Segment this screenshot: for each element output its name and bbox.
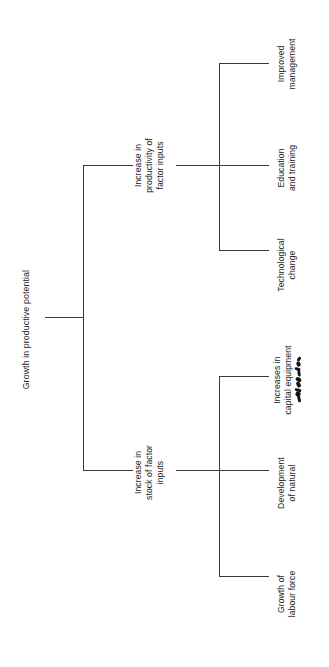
connector-leaf-improved-management [219, 63, 269, 64]
node-growth-of-labour-force[interactable]: Growth of labour force [270, 548, 304, 640]
node-label: Growth in productive potential [21, 270, 32, 389]
node-label: Improved management [276, 38, 298, 89]
connector-arm-stock [83, 470, 133, 471]
connector-leaf-technological-change [219, 250, 269, 251]
node-increase-in-stock-of-factor-inputs[interactable]: Increase in stock of factor inputs [128, 402, 170, 542]
node-label: Growth of labour force [276, 571, 298, 618]
node-label-line: stock of factor [144, 445, 155, 500]
node-growth-in-productive-potential[interactable]: Growth in productive potential [14, 220, 40, 440]
connector-root-stem [45, 317, 83, 318]
tree-diagram: Growth in productive potential Increase … [0, 0, 329, 667]
node-label-line: management [287, 38, 298, 89]
connector-leaf-increases-in-capital-equipment [219, 376, 269, 377]
node-development-of-natural[interactable]: Development of natural [270, 436, 304, 530]
node-label: Technological change [276, 238, 298, 291]
node-label-line: change [287, 238, 298, 291]
node-label-line: labour force [287, 571, 298, 618]
node-improved-management[interactable]: Improved management [272, 20, 302, 108]
node-label-line: Increase in [133, 138, 144, 193]
handwritten-scribble-annotation [295, 357, 302, 403]
connector-branch2-stem [176, 470, 219, 471]
node-label-line: Increase in [133, 445, 144, 500]
connector-leaf-growth-of-labour-force [219, 576, 269, 577]
node-label-line: inputs [155, 445, 166, 500]
connector-branch2-spine-main [219, 376, 220, 576]
node-label-line: Increases in [272, 345, 283, 414]
connector-branch1-spine [219, 63, 220, 251]
node-label-line: of natural [287, 457, 298, 509]
node-label: Development of natural [276, 457, 298, 509]
node-label-line: Technological [276, 238, 287, 291]
connector-branch1-stem [176, 165, 219, 166]
node-label: Education and training [276, 145, 298, 191]
node-label-line: and training [287, 145, 298, 191]
node-label-line: factor inputs [155, 138, 166, 193]
connector-leaf-education-and-training [219, 165, 269, 166]
node-label: Increases in capital equipment [272, 345, 302, 414]
node-education-and-training[interactable]: Education and training [272, 128, 302, 208]
node-label-line: Growth of [276, 571, 287, 618]
node-label-line: capital equipment [283, 345, 294, 414]
connector-leaf-development-of-natural [219, 470, 269, 471]
node-label-line: Growth in productive potential [21, 270, 32, 389]
node-increases-in-capital-equipment[interactable]: Increases in capital equipment [268, 330, 306, 430]
node-label-line: Improved [276, 38, 287, 89]
node-technological-change[interactable]: Technological change [272, 222, 302, 308]
node-label-line: productivity of [144, 138, 155, 193]
node-label: Increase in productivity of factor input… [133, 138, 166, 193]
node-label-line: Education [276, 145, 287, 191]
node-label-line: Development [276, 457, 287, 509]
connector-arm-productivity [83, 165, 133, 166]
connector-main-spine [83, 165, 84, 471]
node-label: Increase in stock of factor inputs [133, 445, 166, 500]
node-increase-in-productivity-of-factor-inputs[interactable]: Increase in productivity of factor input… [128, 95, 170, 235]
